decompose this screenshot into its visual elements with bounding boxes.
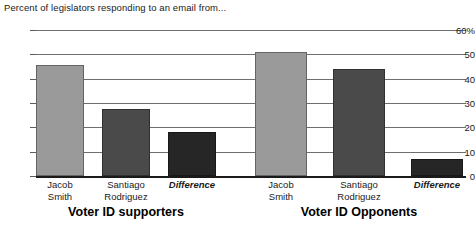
panel-voter-id-opponents	[252, 30, 466, 176]
chart-title: Percent of legislators responding to an …	[4, 2, 226, 13]
plot-area: 0102030405060%	[0, 30, 475, 186]
category-label-line2: Rodriguez	[321, 191, 397, 203]
bar-fill	[36, 65, 84, 176]
category-label: JacobSmith	[24, 179, 96, 202]
category-label-line1: Jacob	[47, 179, 72, 190]
category-label-line1: Santiago	[107, 179, 145, 190]
bar-fill	[168, 132, 216, 176]
bar	[102, 109, 150, 176]
bar-group-right	[252, 30, 466, 176]
category-label-line1: Difference	[169, 179, 215, 190]
panel-voter-id-supporters	[36, 30, 216, 176]
bar-fill	[333, 69, 385, 176]
bar-group-left	[36, 30, 216, 176]
bar	[168, 132, 216, 176]
bar	[333, 69, 385, 176]
chart-figure: Percent of legislators responding to an …	[0, 0, 475, 236]
group-title-left: Voter ID supporters	[30, 205, 222, 219]
category-label: JacobSmith	[243, 179, 319, 202]
gridline	[36, 176, 466, 178]
bar-fill	[411, 159, 463, 176]
y-axis	[0, 30, 30, 176]
category-label: Difference	[399, 179, 475, 191]
y-axis-tick-mark	[30, 176, 36, 177]
group-title-right: Voter ID Opponents	[246, 205, 472, 219]
category-label-line2: Smith	[243, 191, 319, 203]
category-label-line1: Jacob	[268, 179, 293, 190]
bar-fill	[102, 109, 150, 176]
category-label-line1: Santiago	[340, 179, 378, 190]
category-label-line1: Difference	[414, 179, 460, 190]
category-labels-left: JacobSmithSantiagoRodriguezDifference	[36, 179, 216, 205]
category-labels-right: JacobSmithSantiagoRodriguezDifference	[252, 179, 466, 205]
category-label: SantiagoRodriguez	[90, 179, 162, 202]
bar	[255, 52, 307, 176]
bar	[36, 65, 84, 176]
category-label: SantiagoRodriguez	[321, 179, 397, 202]
category-label-line2: Smith	[24, 191, 96, 203]
category-label-line2: Rodriguez	[90, 191, 162, 203]
category-label: Difference	[156, 179, 228, 191]
bar	[411, 159, 463, 176]
bar-fill	[255, 52, 307, 176]
